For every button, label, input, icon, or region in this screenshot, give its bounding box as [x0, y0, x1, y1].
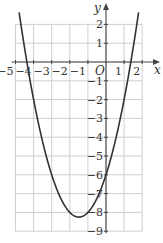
y-tick-label: −5: [87, 150, 103, 163]
x-axis-label: x: [154, 63, 161, 77]
x-tick-label: 1: [115, 65, 122, 78]
parabola-graph: −5−4−3−2−11221−1−2−3−4−5−6−7−8−9 x y O: [0, 0, 163, 243]
origin-label: O: [95, 64, 105, 78]
y-tick-label: −3: [87, 112, 103, 125]
y-tick-label: 2: [96, 18, 103, 31]
x-tick-label: −3: [33, 65, 49, 78]
x-tick-label: −5: [0, 65, 14, 78]
y-tick-label: 1: [96, 37, 103, 50]
x-tick-label: 2: [133, 65, 140, 78]
y-tick-label: −8: [87, 206, 103, 219]
y-axis-label: y: [93, 1, 101, 15]
tick-labels: −5−4−3−2−11221−1−2−3−4−5−6−7−8−9: [0, 18, 142, 238]
x-tick-label: −1: [70, 65, 86, 78]
grid: [16, 24, 143, 231]
y-tick-label: −6: [87, 169, 103, 182]
y-tick-label: −4: [87, 131, 103, 144]
y-tick-label: −9: [87, 225, 103, 238]
y-tick-label: −2: [87, 94, 103, 107]
x-tick-label: −2: [52, 65, 68, 78]
y-axis-arrow-icon: [103, 3, 109, 10]
